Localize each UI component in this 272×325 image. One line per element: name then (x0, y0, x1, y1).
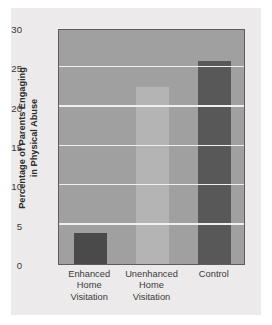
y-axis-title-line-2: in Physical Abuse (28, 99, 38, 177)
gridline (59, 223, 244, 224)
figure-panel: Percentage of Parents Engaging in Physic… (11, 8, 261, 315)
x-axis-category-label-line: Home (120, 280, 182, 291)
x-axis-category-label-line: Enhanced (58, 269, 120, 280)
y-axis-tick-label: 20 (0, 102, 22, 113)
x-axis-category-label-line: Home (58, 280, 120, 291)
gridline (59, 66, 244, 67)
gridline (59, 145, 244, 146)
x-axis-category-label: EnhancedHomeVisitation (58, 269, 120, 303)
bar[interactable] (74, 233, 107, 264)
y-axis-tick-label: 15 (0, 142, 22, 153)
x-axis-category-label: UnenhancedHomeVisitation (120, 269, 182, 303)
x-axis-category-label-line: Unenhanced (120, 269, 182, 280)
gridline (59, 105, 244, 106)
x-axis-category-label-line: Visitation (120, 292, 182, 303)
gridline (59, 184, 244, 185)
x-axis-category-label-line: Control (183, 269, 245, 280)
y-axis-tick-label: 25 (0, 63, 22, 74)
y-axis-tick-label: 30 (0, 24, 22, 35)
y-axis-tick-label: 5 (0, 220, 22, 231)
y-axis-tick-label: 10 (0, 181, 22, 192)
y-axis-tick-label: 0 (0, 260, 22, 271)
bar[interactable] (198, 61, 231, 264)
x-axis-category-label-line: Visitation (58, 292, 120, 303)
x-axis-category-label: Control (183, 269, 245, 280)
bar[interactable] (136, 87, 169, 264)
plot-area (58, 29, 245, 265)
